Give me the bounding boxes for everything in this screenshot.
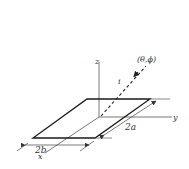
direction-label: (θ,ϕ) <box>137 55 156 64</box>
dim-2a-label: 2a <box>124 122 136 132</box>
dim-2b-label: 2b <box>34 145 47 155</box>
plate <box>33 99 150 138</box>
z-label: z <box>94 57 100 66</box>
y-label: y <box>172 113 178 122</box>
incident-arrow <box>134 72 138 77</box>
dim-2b <box>17 143 28 151</box>
incident-ray <box>101 66 146 116</box>
plate-diagram: z y x i (θ,ϕ) 2a 2b <box>0 0 189 169</box>
dim-2b-tick <box>80 141 94 151</box>
x-axis <box>45 117 99 153</box>
incident-label: i <box>118 77 121 86</box>
